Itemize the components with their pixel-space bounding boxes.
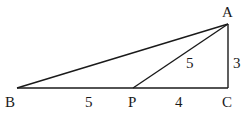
point-label-c: C	[222, 94, 232, 110]
point-label-p: P	[128, 94, 136, 110]
length-label-ap: 5	[186, 55, 194, 71]
point-label-a: A	[222, 4, 233, 20]
point-label-b: B	[5, 94, 15, 110]
segment-ab	[17, 24, 228, 88]
triangle-diagram: A B P C 5 4 5 3	[0, 0, 248, 115]
segment-ap	[133, 24, 228, 88]
length-label-pc: 4	[175, 94, 183, 110]
length-label-bp: 5	[85, 94, 93, 110]
length-label-ac: 3	[233, 55, 241, 71]
